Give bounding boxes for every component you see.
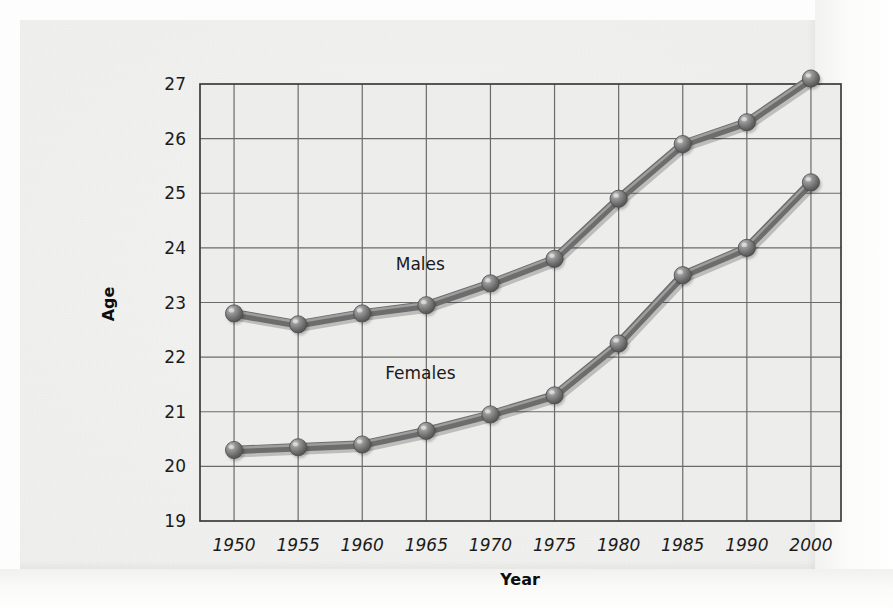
data-point-marker <box>738 114 755 131</box>
data-point-marker <box>546 250 563 267</box>
data-point-specular <box>806 73 812 77</box>
y-tick-label-23: 23 <box>164 293 186 313</box>
y-tick-label-22: 22 <box>164 347 186 367</box>
x-axis-title: Year <box>499 570 540 589</box>
x-tick-label-1955: 1955 <box>277 535 320 555</box>
data-point-specular <box>421 300 427 304</box>
data-point-marker <box>290 439 307 456</box>
series-annotation-males: Males <box>396 254 445 274</box>
data-point-marker <box>610 190 627 207</box>
data-point-marker <box>802 174 819 191</box>
data-point-specular <box>549 390 555 394</box>
x-tick-label-1985: 1985 <box>661 535 704 555</box>
data-point-specular <box>806 177 812 181</box>
data-point-specular <box>613 338 619 342</box>
x-axis-tick-labels: 1950195519601965197019751980198519902000 <box>212 535 832 555</box>
y-tick-label-20: 20 <box>164 456 186 476</box>
data-point-marker <box>418 422 435 439</box>
data-point-specular <box>357 308 363 312</box>
data-point-specular <box>677 139 683 143</box>
data-point-marker <box>290 316 307 333</box>
data-point-marker <box>674 267 691 284</box>
data-point-specular <box>485 409 491 413</box>
data-point-marker <box>546 387 563 404</box>
data-point-marker <box>418 297 435 314</box>
data-point-specular <box>741 243 747 247</box>
data-point-specular <box>229 308 235 312</box>
y-tick-label-21: 21 <box>164 402 186 422</box>
data-point-marker <box>738 239 755 256</box>
data-point-marker <box>354 436 371 453</box>
x-tick-label-1980: 1980 <box>597 535 640 555</box>
data-point-specular <box>293 319 299 323</box>
chart-canvas: 192021222324252627 195019551960196519701… <box>40 16 893 613</box>
data-point-marker <box>225 441 242 458</box>
data-point-specular <box>613 194 619 198</box>
x-tick-label-1965: 1965 <box>405 535 448 555</box>
y-axis-title: Age <box>99 287 118 322</box>
y-tick-label-24: 24 <box>164 238 186 258</box>
y-axis-tick-labels: 192021222324252627 <box>164 74 186 531</box>
x-tick-label-1975: 1975 <box>533 535 576 555</box>
line-chart-age-at-first-marriage: 192021222324252627 195019551960196519701… <box>40 16 893 613</box>
x-tick-label-2000: 2000 <box>789 535 832 555</box>
data-point-specular <box>293 442 299 446</box>
data-point-specular <box>677 270 683 274</box>
y-tick-label-19: 19 <box>164 511 186 531</box>
data-point-marker <box>674 135 691 152</box>
data-point-specular <box>485 278 491 282</box>
y-tick-label-25: 25 <box>164 183 186 203</box>
x-tick-label-1950: 1950 <box>212 535 255 555</box>
x-tick-label-1970: 1970 <box>469 535 512 555</box>
x-tick-label-1960: 1960 <box>341 535 384 555</box>
series-annotation-females: Females <box>385 363 455 383</box>
data-point-marker <box>610 335 627 352</box>
y-tick-label-26: 26 <box>164 129 186 149</box>
data-point-specular <box>357 439 363 443</box>
data-point-marker <box>802 70 819 87</box>
y-tick-label-27: 27 <box>164 74 186 94</box>
x-tick-label-1990: 1990 <box>725 535 768 555</box>
data-point-marker <box>482 406 499 423</box>
data-point-specular <box>549 254 555 258</box>
data-point-marker <box>354 305 371 322</box>
data-point-marker <box>482 275 499 292</box>
data-point-specular <box>421 426 427 430</box>
data-point-specular <box>229 445 235 449</box>
data-point-specular <box>741 117 747 121</box>
data-point-marker <box>225 305 242 322</box>
